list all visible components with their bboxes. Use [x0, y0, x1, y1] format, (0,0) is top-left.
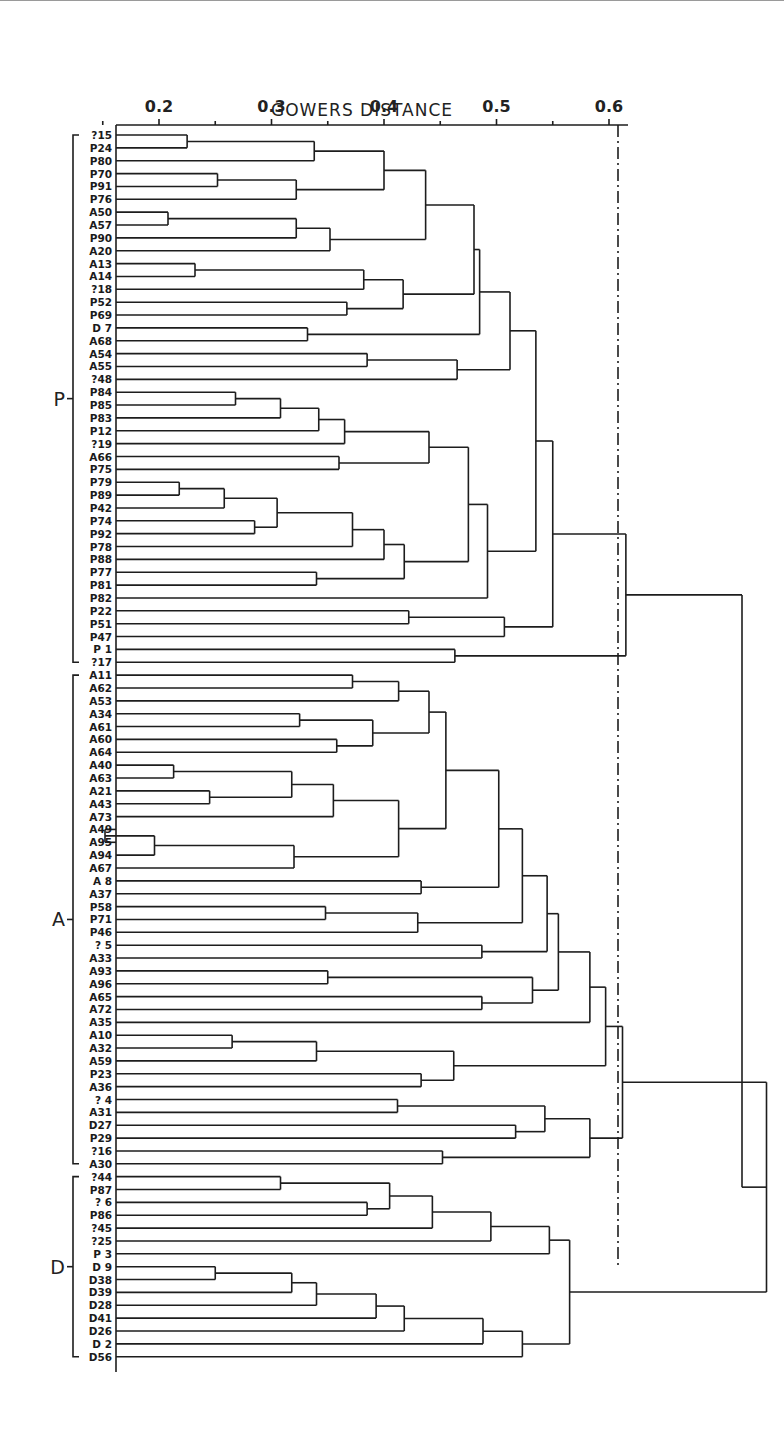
leaf-label: P89: [90, 489, 112, 501]
leaf-label: P86: [90, 1209, 112, 1221]
leaf-label: A67: [89, 862, 112, 874]
leaf-label: A95: [89, 836, 112, 848]
leaf-label: P88: [90, 553, 112, 565]
leaf-label: ?44: [91, 1171, 112, 1183]
leaf-label: A93: [89, 965, 112, 977]
leaf-label: A66: [89, 451, 112, 463]
leaf-label: A 8: [93, 875, 112, 887]
leaf-label: A36: [89, 1081, 112, 1093]
group-brackets: PAD: [50, 135, 79, 1357]
leaf-label: A34: [89, 708, 112, 720]
leaf-label: P90: [90, 232, 112, 244]
leaf-label: P75: [90, 463, 112, 475]
leaf-label: D28: [89, 1299, 112, 1311]
leaf-label: P 3: [93, 1248, 112, 1260]
leaf-label: A72: [89, 1003, 112, 1015]
leaf-label: P83: [90, 412, 112, 424]
leaf-label: D 9: [92, 1261, 112, 1273]
leaf-label: P81: [90, 579, 112, 591]
tick-label: 0.3: [257, 97, 285, 116]
leaf-label: P12: [90, 425, 112, 437]
leaf-label: P87: [90, 1184, 112, 1196]
x-axis: 0.20.30.40.50.6: [103, 97, 628, 1372]
group-bracket: [73, 1177, 79, 1357]
leaf-label: ?17: [91, 656, 112, 668]
leaf-label: A60: [89, 733, 112, 745]
leaf-label: P74: [90, 515, 112, 527]
dendrogram-chart: GOWERS DISTANCE 0.20.30.40.50.6 ?15P24P8…: [0, 0, 784, 1440]
leaf-label: D56: [89, 1351, 112, 1363]
leaf-label: P69: [90, 309, 112, 321]
leaf-label: P80: [90, 155, 112, 167]
leaf-label: ?15: [91, 129, 112, 141]
leaf-label: ?16: [91, 1145, 112, 1157]
leaf-label: P29: [90, 1132, 112, 1144]
leaf-label: A32: [89, 1042, 112, 1054]
leaf-label: A65: [89, 991, 112, 1003]
leaf-label: ?19: [91, 438, 112, 450]
axis-title: GOWERS DISTANCE: [271, 100, 453, 120]
tick-label: 0.6: [595, 97, 623, 116]
leaf-label: A62: [89, 682, 112, 694]
leaf-label: P79: [90, 476, 112, 488]
leaf-label: A43: [89, 798, 112, 810]
leaf-label: P52: [90, 296, 112, 308]
leaf-label: P 1: [93, 643, 112, 655]
leaf-label: P46: [90, 926, 112, 938]
leaf-label: A11: [89, 669, 112, 681]
dendrogram-tree: [105, 135, 767, 1357]
leaf-label: P47: [90, 631, 112, 643]
leaf-label: A68: [89, 335, 112, 347]
leaf-label: A14: [89, 270, 112, 282]
leaf-label: A53: [89, 695, 112, 707]
leaf-label: P85: [90, 399, 112, 411]
leaf-label: A13: [89, 258, 112, 270]
group-label: P: [54, 388, 65, 410]
leaf-label: P70: [90, 168, 112, 180]
leaf-label: D39: [89, 1286, 112, 1298]
leaf-label: ? 5: [95, 939, 112, 951]
leaf-label: P78: [90, 541, 112, 553]
leaf-label: A37: [89, 888, 112, 900]
group-bracket: [73, 675, 79, 1164]
leaf-label: P51: [90, 618, 112, 630]
leaf-label: D 7: [92, 322, 112, 334]
tick-label: 0.4: [370, 97, 398, 116]
leaf-label: ?48: [91, 373, 112, 385]
leaf-label: P23: [90, 1068, 112, 1080]
leaf-label: P71: [90, 913, 112, 925]
leaf-label: A96: [89, 978, 112, 990]
leaf-label: P82: [90, 592, 112, 604]
leaf-label: P42: [90, 502, 112, 514]
leaf-label: P58: [90, 901, 112, 913]
leaf-label: A35: [89, 1016, 112, 1028]
leaf-label: A94: [89, 849, 112, 861]
leaf-label: D26: [89, 1325, 112, 1337]
leaf-label: A59: [89, 1055, 112, 1067]
leaf-label: D27: [89, 1119, 112, 1131]
leaf-label: A61: [89, 721, 112, 733]
tick-label: 0.5: [482, 97, 510, 116]
leaf-label: P24: [90, 142, 112, 154]
group-label: D: [50, 1256, 65, 1278]
leaf-label: D38: [89, 1274, 112, 1286]
leaf-label: ? 6: [95, 1196, 112, 1208]
leaf-label: D41: [89, 1312, 112, 1324]
leaf-label: A64: [89, 746, 112, 758]
leaf-label: ? 4: [95, 1094, 112, 1106]
leaf-label: A50: [89, 206, 112, 218]
leaf-labels: ?15P24P80P70P91P76A50A57P90A20A13A14?18P…: [89, 129, 112, 1363]
leaf-label: P92: [90, 528, 112, 540]
leaf-label: P76: [90, 193, 112, 205]
leaf-label: A10: [89, 1029, 112, 1041]
leaf-label: D 2: [92, 1338, 112, 1350]
leaf-label: A20: [89, 245, 112, 257]
group-label: A: [52, 908, 65, 930]
leaf-label: A55: [89, 360, 112, 372]
leaf-label: P91: [90, 180, 112, 192]
leaf-label: ?25: [91, 1235, 112, 1247]
leaf-label: P84: [90, 386, 112, 398]
leaf-label: A54: [89, 348, 112, 360]
group-bracket: [73, 135, 79, 662]
leaf-label: A63: [89, 772, 112, 784]
